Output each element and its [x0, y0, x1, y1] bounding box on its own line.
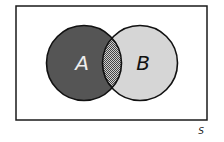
set-a-label: A — [73, 51, 89, 75]
set-b-label: B — [136, 51, 150, 75]
universe-label: S — [198, 126, 204, 136]
venn-diagram: A B S — [0, 0, 224, 142]
